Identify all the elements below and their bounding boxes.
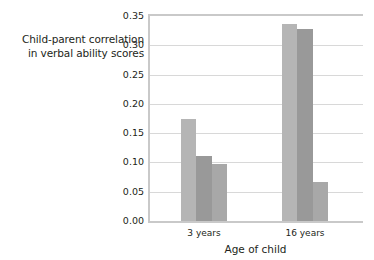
y-axis-tick-labels: 0.000.050.100.150.200.250.300.35: [108, 0, 144, 260]
bar-chart-figure: Child-parent correlation in verbal abili…: [0, 0, 374, 260]
y-axis-tick-label: 0.25: [108, 70, 144, 80]
x-axis-tick-label: 3 years: [164, 228, 244, 239]
grid-line: [150, 45, 363, 46]
bar: [212, 164, 228, 221]
bar: [196, 156, 212, 221]
y-axis-tick-label: 0.15: [108, 128, 144, 138]
grid-line: [150, 75, 363, 76]
bar: [313, 182, 329, 221]
plot-area: [148, 16, 363, 221]
grid-line: [150, 104, 363, 105]
bar: [282, 24, 298, 221]
x-axis-title: Age of child: [148, 243, 363, 256]
y-axis-tick-label: 0.35: [108, 11, 144, 21]
x-axis-tick-labels: 3 years16 years: [148, 228, 363, 242]
x-axis-spine: [148, 221, 363, 223]
y-axis-tick-label: 0.05: [108, 187, 144, 197]
y-axis-tick-label: 0.00: [108, 216, 144, 226]
y-axis-tick-label: 0.20: [108, 99, 144, 109]
bar: [297, 29, 313, 221]
bar: [181, 119, 197, 221]
y-axis-tick-label: 0.30: [108, 40, 144, 50]
x-axis-tick-label: 16 years: [265, 228, 345, 239]
y-axis-tick-label: 0.10: [108, 157, 144, 167]
plot-top-rule: [148, 14, 363, 16]
